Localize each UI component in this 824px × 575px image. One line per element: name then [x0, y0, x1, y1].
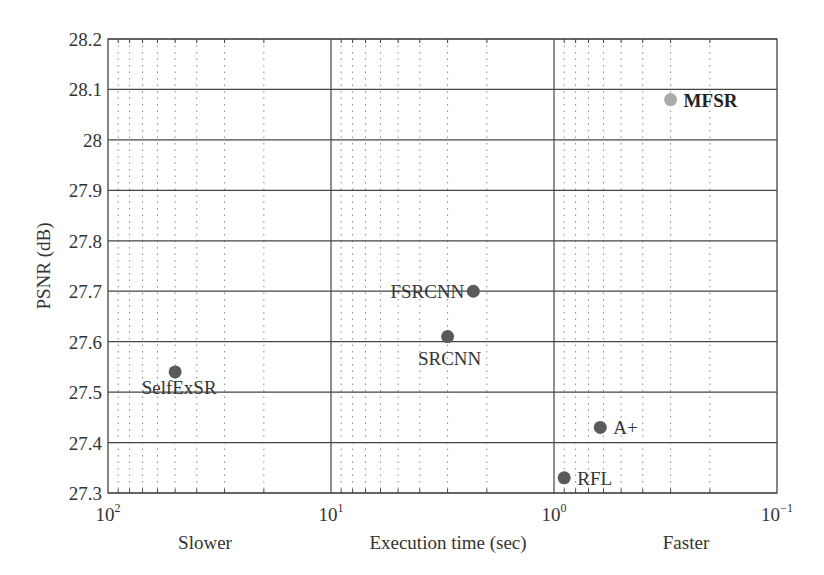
slower-label: Slower: [178, 532, 233, 553]
point-marker: [467, 285, 480, 298]
point-label: SelfExSR: [142, 377, 217, 398]
y-tick-label: 27.5: [69, 382, 102, 403]
x-axis-tick-labels: 10210110010−1: [96, 501, 793, 525]
y-tick-label: 28.2: [69, 29, 102, 50]
point-marker: [558, 471, 571, 484]
y-axis-title: PSNR (dB): [33, 222, 55, 309]
y-axis-tick-labels: 27.327.427.527.627.727.827.92828.128.2: [69, 29, 103, 504]
faster-label: Faster: [663, 532, 710, 553]
point-label: RFL: [577, 468, 612, 489]
point-marker: [664, 93, 677, 106]
scatter-chart: 27.327.427.527.627.727.827.92828.128.2 1…: [0, 0, 824, 575]
x-tick-label: 10−1: [761, 501, 793, 525]
data-points: SelfExSRSRCNNFSRCNNA+RFLMFSR: [142, 90, 738, 489]
x-tick-label: 102: [96, 501, 121, 525]
y-tick-label: 27.6: [69, 332, 102, 353]
data-point-aplus: A+: [594, 417, 638, 438]
y-tick-label: 27.3: [69, 483, 102, 504]
x-axis-title: Execution time (sec): [369, 532, 526, 554]
y-tick-label: 27.4: [69, 433, 103, 454]
x-tick-label: 100: [542, 501, 567, 525]
plot-frame: [108, 39, 777, 493]
point-label: A+: [613, 417, 637, 438]
y-tick-label: 27.8: [69, 231, 102, 252]
y-tick-label: 28: [83, 130, 102, 151]
grid-lines: [108, 39, 777, 493]
point-label: FSRCNN: [390, 281, 464, 302]
data-point-srcnn: SRCNN: [418, 330, 482, 369]
point-label: SRCNN: [418, 348, 482, 369]
data-point-mfsr: MFSR: [664, 90, 738, 111]
x-tick-label: 101: [319, 501, 344, 525]
point-label: MFSR: [684, 90, 738, 111]
data-point-rfl: RFL: [558, 468, 612, 489]
y-tick-label: 27.7: [69, 281, 102, 302]
data-point-selfexsr: SelfExSR: [142, 365, 217, 398]
y-tick-label: 27.9: [69, 180, 102, 201]
point-marker: [594, 421, 607, 434]
y-tick-label: 28.1: [69, 79, 102, 100]
point-marker: [441, 330, 454, 343]
